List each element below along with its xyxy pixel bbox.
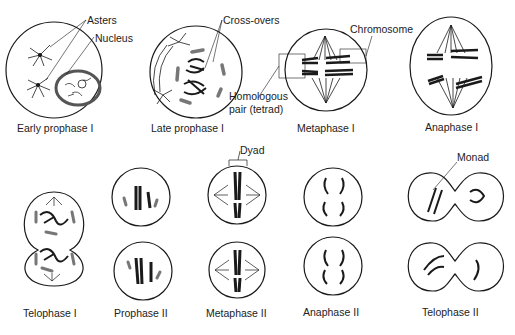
cells-telophase-2 — [408, 162, 503, 291]
caption-metaphase-1: Metaphase I — [297, 122, 355, 134]
cells-prophase-2 — [112, 168, 172, 300]
label-monad: Monad — [457, 151, 489, 163]
caption-metaphase-2: Metaphase II — [206, 307, 267, 319]
label-nucleus: Nucleus — [95, 32, 133, 44]
caption-anaphase-2: Anaphase II — [303, 306, 359, 318]
caption-telophase-2: Telophase II — [422, 306, 479, 318]
label-cross-overs: Cross-overs — [223, 14, 280, 26]
label-dyad: Dyad — [240, 144, 265, 156]
label-homologous-pair-line2: pair (tetrad) — [229, 103, 283, 115]
cells-anaphase-2 — [304, 168, 362, 295]
cell-early-prophase-1 — [6, 20, 102, 118]
caption-anaphase-1: Anaphase I — [425, 121, 478, 133]
caption-telophase-1: Telophase I — [23, 307, 77, 319]
cells-metaphase-2 — [208, 151, 266, 298]
label-chromosome: Chromosome — [350, 23, 413, 35]
cell-anaphase-1 — [410, 17, 492, 115]
label-asters: Asters — [87, 14, 117, 26]
label-homologous-pair-line1: Homologous — [229, 90, 288, 102]
caption-late-prophase-1: Late prophase I — [151, 122, 224, 134]
cell-telophase-1 — [24, 192, 83, 286]
caption-early-prophase-1: Early prophase I — [17, 122, 93, 134]
meiosis-diagram — [0, 0, 515, 335]
caption-prophase-2: Prophase II — [114, 307, 168, 319]
